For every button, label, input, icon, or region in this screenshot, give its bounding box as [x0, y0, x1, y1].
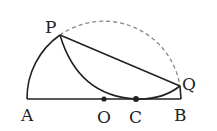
label-C: C [129, 107, 142, 127]
label-A: A [20, 105, 34, 125]
label-Q: Q [182, 74, 196, 94]
label-P: P [45, 17, 56, 37]
chord-PQ [60, 35, 180, 86]
segment-BQ [180, 86, 181, 99]
folded-arc-PCQ [60, 35, 180, 99]
semicircle-arc-AP [27, 35, 60, 99]
dashed-semicircle-arc [60, 21, 180, 86]
label-O: O [97, 107, 111, 127]
geometry-diagram: P Q A O C B [0, 0, 217, 131]
label-B: B [174, 105, 187, 125]
point-C [133, 96, 139, 102]
point-O [101, 96, 106, 101]
